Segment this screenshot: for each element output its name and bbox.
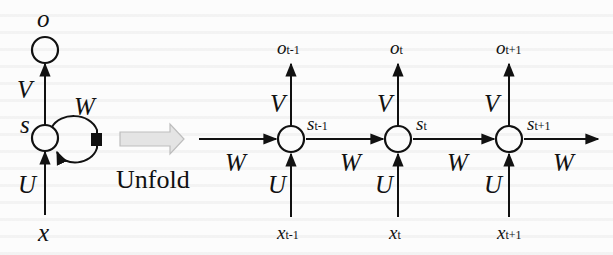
- label-s-t-minus-1: st-1: [307, 114, 328, 133]
- label-o: o: [37, 6, 50, 31]
- label-U-t: U: [375, 172, 393, 197]
- label-s-t: st: [416, 114, 427, 133]
- label-W-into-t-plus-1: W: [447, 150, 468, 175]
- label-x-t-minus-1: xt-1: [277, 223, 299, 242]
- label-U-t-plus-1: U: [484, 172, 502, 197]
- label-W-trailing: W: [553, 150, 574, 175]
- output-node-o: [32, 37, 58, 63]
- rnn-unfold-diagram: o V W s U x Unfold ot-1 V st-1 W U xt-1 …: [0, 0, 613, 255]
- label-x-t: xt: [389, 223, 401, 242]
- label-W-recurrent: W: [74, 94, 95, 119]
- folded-network: [32, 37, 102, 215]
- label-U-t-minus-1: U: [268, 172, 286, 197]
- state-node-t-minus-1: [278, 126, 304, 152]
- label-V: V: [17, 77, 32, 102]
- label-x: x: [38, 220, 49, 245]
- label-s: s: [20, 112, 30, 137]
- delay-square: [91, 133, 102, 146]
- label-U: U: [18, 172, 36, 197]
- label-o-t-plus-1: ot+1: [496, 38, 522, 57]
- label-s-t-plus-1: st+1: [527, 114, 551, 133]
- label-V-t-plus-1: V: [484, 91, 499, 116]
- state-node-s: [32, 125, 58, 151]
- unfold-label: Unfold: [116, 167, 190, 193]
- label-W-into-t: W: [340, 150, 361, 175]
- label-x-t-plus-1: xt+1: [497, 223, 522, 242]
- label-W-into-t-minus-1: W: [225, 150, 246, 175]
- label-V-t: V: [377, 91, 392, 116]
- unfold-arrow: [120, 124, 184, 154]
- state-node-t: [385, 126, 411, 152]
- label-V-t-minus-1: V: [270, 91, 285, 116]
- label-o-t-minus-1: ot-1: [277, 38, 300, 57]
- state-node-t-plus-1: [496, 126, 522, 152]
- label-o-t: ot: [390, 38, 403, 57]
- unfolded-network: [199, 64, 598, 217]
